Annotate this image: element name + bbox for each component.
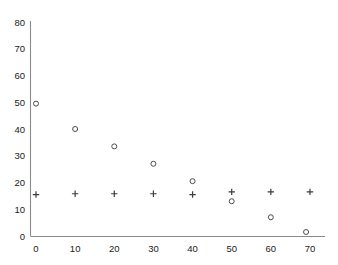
plot-area: 01020304050607080 010203040506070	[0, 0, 338, 265]
data-point-circle	[190, 179, 195, 184]
x-tick-label: 70	[305, 243, 316, 254]
y-tick-label: 40	[14, 124, 25, 135]
y-tick-label: 10	[14, 204, 25, 215]
y-tick-label: 0	[20, 231, 25, 242]
x-tick-label: 60	[266, 243, 277, 254]
data-point-plus	[229, 189, 235, 195]
y-tick-label: 80	[14, 17, 25, 28]
x-tick-label: 50	[226, 243, 237, 254]
x-tick-label: 10	[70, 243, 81, 254]
data-point-circle	[112, 144, 117, 149]
data-point-plus	[33, 191, 39, 197]
data-point-circle	[304, 229, 309, 234]
scatter-chart: 01020304050607080 010203040506070	[0, 0, 338, 265]
x-tick-label: 20	[109, 243, 120, 254]
data-point-circle	[73, 127, 78, 132]
x-tick-label: 0	[33, 243, 38, 254]
y-tick-label: 60	[14, 70, 25, 81]
data-point-plus	[111, 191, 117, 197]
series-circle-series	[34, 101, 309, 234]
x-tick-label-group: 010203040506070	[33, 243, 315, 254]
data-point-circle	[268, 215, 273, 220]
y-tick-label: 30	[14, 150, 25, 161]
y-tick-label: 70	[14, 43, 25, 54]
data-point-circle	[151, 161, 156, 166]
data-point-plus	[189, 191, 195, 197]
x-tick-label: 40	[187, 243, 198, 254]
data-series-layer	[33, 101, 313, 234]
y-tick-label: 50	[14, 97, 25, 108]
x-tick-label: 30	[148, 243, 159, 254]
data-point-plus	[72, 191, 78, 197]
data-point-plus	[307, 189, 313, 195]
data-point-plus	[268, 189, 274, 195]
series-plus-series	[33, 189, 313, 198]
y-tick-label: 20	[14, 177, 25, 188]
data-point-circle	[229, 199, 234, 204]
y-tick-label-group: 01020304050607080	[14, 17, 25, 242]
data-point-plus	[150, 191, 156, 197]
data-point-circle	[34, 101, 39, 106]
